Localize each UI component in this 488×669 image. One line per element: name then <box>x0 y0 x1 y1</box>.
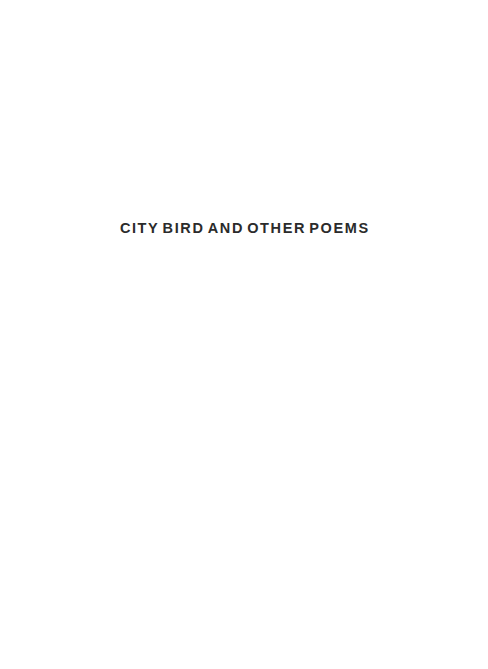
half-title-block: CITY BIRD AND OTHER POEMS <box>0 218 488 238</box>
book-page: CITY BIRD AND OTHER POEMS <box>0 0 488 669</box>
title-word: AND <box>208 220 244 236</box>
title-word: POEMS <box>309 220 369 236</box>
title-word: BIRD <box>163 220 205 236</box>
book-title: CITY BIRD AND OTHER POEMS <box>120 218 370 238</box>
title-word: CITY <box>120 220 160 236</box>
title-word: OTHER <box>247 220 306 236</box>
